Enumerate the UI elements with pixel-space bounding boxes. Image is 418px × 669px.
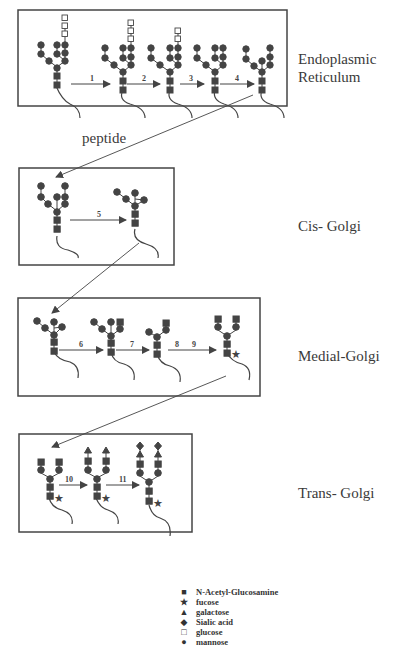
peptide-label: peptide [82,130,126,146]
glycan-medial-3 [146,320,181,382]
svg-text:★: ★ [153,497,163,510]
svg-text:★: ★ [101,492,111,505]
connector-medial-to-trans [52,376,226,447]
glycan-er-1 [38,15,80,118]
glycan-trans-3: ★ [137,442,171,536]
star-icon: ★ [178,597,190,607]
legend-item-glucose: □ glucose [178,627,278,637]
svg-text:★: ★ [54,492,64,505]
legend-label: Sialic acid [196,617,233,627]
legend-label: N-Acetyl-Glucosamine [196,587,278,597]
svg-text:★: ★ [231,348,241,361]
legend-item-galactose: ▲ galactose [178,607,278,617]
legend-item-fucose: ★ fucose [178,597,278,607]
glycan-medial-2 [91,319,135,380]
diamond-icon: ◆ [178,617,190,627]
triangle-icon: ▲ [178,607,190,617]
circle-icon: ● [178,637,190,647]
legend-label: fucose [196,597,219,607]
glycan-er-5 [243,45,284,118]
legend-item-sialic-acid: ◆ Sialic acid [178,617,278,627]
legend-item-n-acetyl-glucosamine: ■ N-Acetyl-Glucosamine [178,587,278,597]
connector-cis-to-medial [52,243,139,313]
glycan-medial-1 [34,318,79,378]
square-filled-icon: ■ [178,587,190,597]
glycosylation-pathway-diagram: peptide [0,0,418,669]
glycan-er-4 [194,45,238,118]
glycan-cis-2 [114,189,159,258]
legend-label: glucose [196,627,222,637]
glycan-medial-4: ★ [215,316,250,380]
legend-item-mannose: ● mannose [178,637,278,647]
square-open-icon: □ [178,627,190,637]
legend-label: mannose [196,637,228,647]
glycan-er-3 [148,28,192,118]
glycan-trans-1: ★ [38,459,73,524]
glycan-er-2 [102,20,145,118]
legend-label: galactose [196,607,229,617]
label-trans-golgi: Trans- Golgi [298,484,375,502]
label-cis-golgi: Cis- Golgi [298,217,361,235]
legend: ■ N-Acetyl-Glucosamine ★ fucose ▲ galact… [178,587,278,647]
label-medial-golgi: Medial-Golgi [298,347,380,365]
label-endoplasmic-reticulum: Endoplasmic Reticulum [298,50,376,86]
